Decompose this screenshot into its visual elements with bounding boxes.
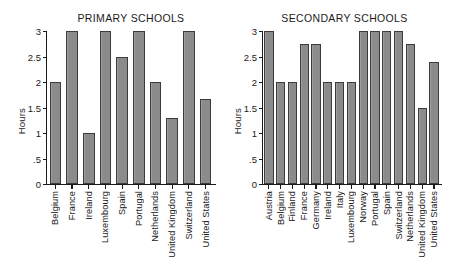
bar-slot (405, 31, 417, 184)
x-category-slot: United Kingdom (164, 191, 181, 258)
x-tick-slot (80, 185, 97, 189)
x-category-slot: Ireland (80, 191, 97, 258)
x-tick-marks (263, 185, 440, 189)
y-tick-label: 2 (252, 77, 257, 88)
y-tick-mark (259, 133, 263, 134)
bar-slot (287, 31, 299, 184)
x-category-slot: Netherlands (405, 191, 417, 258)
x-category-slot: Spain (381, 191, 393, 258)
x-category-slot: Luxembourg (97, 191, 114, 258)
bar-slot (263, 31, 275, 184)
bar (133, 31, 145, 184)
x-tick-slot (275, 185, 287, 189)
bar (347, 82, 356, 184)
bar-series (47, 31, 214, 184)
x-tick-mark (327, 185, 328, 189)
x-category-slot: Finland (287, 191, 299, 258)
bar-series (263, 31, 440, 184)
bar (264, 31, 273, 184)
x-category-label: Ireland (84, 191, 94, 220)
x-tick-slot (97, 185, 114, 189)
x-category-slot: Luxembourg (346, 191, 358, 258)
bar-slot (80, 31, 97, 184)
bar (200, 99, 212, 184)
y-tick-mark (259, 31, 263, 32)
x-category-label: Netherlands (405, 191, 415, 242)
bar-slot (393, 31, 405, 184)
x-tick-mark (315, 185, 316, 189)
bar (370, 31, 379, 184)
bar-slot (381, 31, 393, 184)
x-category-slot: France (298, 191, 310, 258)
y-tick-mark (43, 82, 47, 83)
x-category-labels: BelgiumFranceIrelandLuxembourgSpainPortu… (47, 191, 214, 258)
chart-panel-primary-schools: PRIMARY SCHOOLS Hours 0.511.522.53Belgiu… (0, 0, 226, 278)
x-category-label: Italy (335, 191, 345, 208)
x-category-label: France (299, 191, 309, 220)
x-category-slot: Austria (263, 191, 275, 258)
x-category-label: Ireland (323, 191, 333, 220)
figure-bar-charts: PRIMARY SCHOOLS Hours 0.511.522.53Belgiu… (0, 0, 451, 278)
y-axis-label-primary: Hours (16, 108, 27, 134)
x-category-label: Spain (382, 191, 392, 215)
x-tick-slot (114, 185, 131, 189)
bar-slot (334, 31, 346, 184)
y-tick-label: 0 (36, 179, 41, 190)
y-tick-label: 1 (36, 128, 41, 139)
x-tick-mark (304, 185, 305, 189)
bar (288, 82, 297, 184)
x-tick-mark (188, 185, 189, 189)
bar-slot (47, 31, 64, 184)
x-tick-mark (433, 185, 434, 189)
x-tick-slot (197, 185, 214, 189)
x-category-slot: Belgium (275, 191, 287, 258)
x-tick-mark (374, 185, 375, 189)
x-category-slot: France (64, 191, 81, 258)
x-category-slot: Spain (114, 191, 131, 258)
bar (311, 44, 320, 184)
bar (323, 82, 332, 184)
x-category-label: Belgium (50, 191, 60, 225)
bar (66, 31, 78, 184)
bar-slot (275, 31, 287, 184)
y-tick-mark (259, 108, 263, 109)
bar (50, 82, 62, 184)
x-category-slot: Switzerland (393, 191, 405, 258)
x-category-slot: Ireland (322, 191, 334, 258)
x-category-label: Portugal (370, 191, 380, 226)
y-tick-label: .5 (33, 153, 41, 164)
bar (166, 118, 178, 184)
x-tick-slot (322, 185, 334, 189)
x-category-label: Switzerland (394, 191, 404, 240)
bar-slot (197, 31, 214, 184)
chart-panel-secondary-schools: SECONDARY SCHOOLS Hours 0.511.522.53Aust… (226, 0, 451, 278)
x-category-slot: Portugal (369, 191, 381, 258)
x-tick-slot (381, 185, 393, 189)
x-category-slot: United States (197, 191, 214, 258)
x-category-slot: Netherlands (147, 191, 164, 258)
bar (300, 44, 309, 184)
x-tick-mark (410, 185, 411, 189)
bar-slot (97, 31, 114, 184)
x-tick-slot (357, 185, 369, 189)
bar (418, 108, 427, 185)
x-tick-slot (263, 185, 275, 189)
x-tick-slot (428, 185, 440, 189)
x-tick-mark (351, 185, 352, 189)
x-tick-mark (363, 185, 364, 189)
x-tick-mark (292, 185, 293, 189)
bar-slot (357, 31, 369, 184)
bar (150, 82, 162, 184)
x-category-label: United States (201, 191, 211, 247)
x-category-slot: United Kingdom (416, 191, 428, 258)
y-tick-label: 1 (252, 128, 257, 139)
x-tick-slot (147, 185, 164, 189)
bar-slot (310, 31, 322, 184)
x-tick-mark (268, 185, 269, 189)
x-tick-slot (416, 185, 428, 189)
y-tick-mark (259, 82, 263, 83)
y-tick-label: 1.5 (28, 102, 41, 113)
plot-area-secondary: Hours 0.511.522.53AustriaBelgiumFinlandF… (226, 0, 451, 278)
x-category-label: United Kingdom (417, 191, 427, 258)
y-tick-label: 1.5 (244, 102, 257, 113)
